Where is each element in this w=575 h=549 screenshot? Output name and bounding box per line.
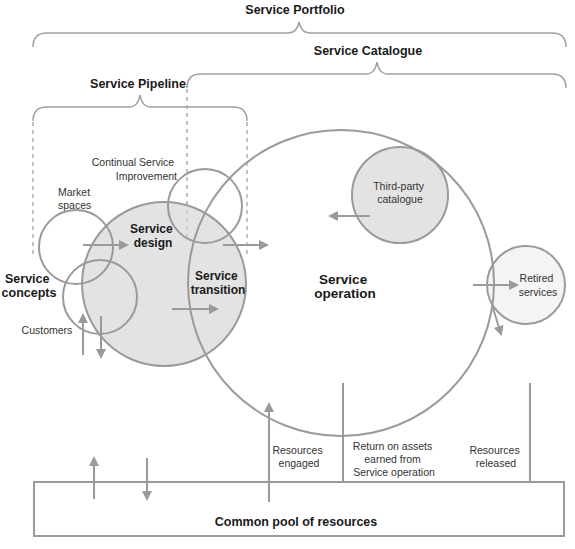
service-transition-label: Service transition: [191, 269, 246, 297]
service-lifecycle-diagram: Service Portfolio Service Catalogue Serv…: [0, 0, 575, 549]
catalogue-label: Service Catalogue: [314, 44, 422, 58]
market-spaces-label: Market spaces: [58, 186, 93, 211]
service-design-label: Service design: [130, 222, 176, 250]
continual-service-improvement-label: Continual Service Improvement: [92, 156, 177, 182]
catalogue-bracket: Service Catalogue: [187, 44, 566, 88]
portfolio-bracket: Service Portfolio: [33, 3, 566, 47]
return-on-assets-label: Return on assets earned from Service ope…: [353, 440, 435, 478]
pipeline-label: Service Pipeline: [90, 77, 186, 91]
third-party-catalogue-label: Third-party catalogue: [373, 180, 427, 205]
portfolio-label: Service Portfolio: [245, 3, 345, 17]
pipeline-bracket: Service Pipeline: [33, 77, 247, 121]
common-pool-label: Common pool of resources: [215, 515, 378, 529]
customers-label: Customers: [22, 324, 73, 336]
service-operation-label: Service operation: [314, 272, 376, 301]
service-concepts-label: Service concepts: [2, 272, 57, 300]
resources-engaged-label: Resources engaged: [272, 444, 325, 469]
resources-released-label: Resources released: [469, 444, 522, 469]
